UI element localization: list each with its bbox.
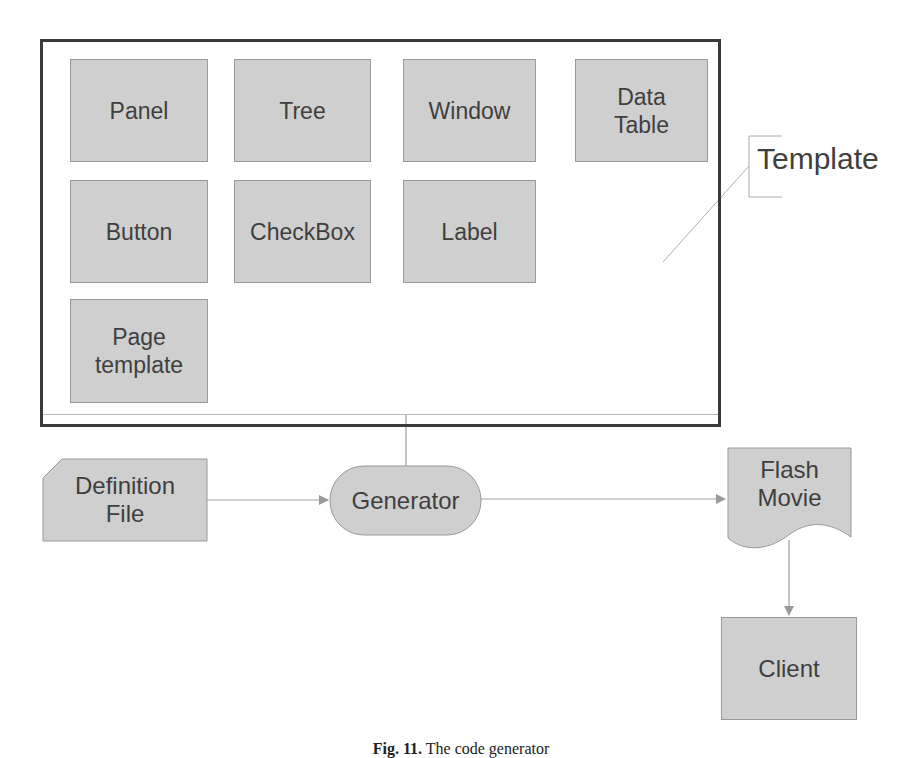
component-panel: Panel [70, 59, 208, 162]
component-window: Window [403, 59, 536, 162]
figure-caption-text: The code generator [422, 740, 549, 757]
definition-file-label: Definition File [50, 459, 200, 541]
generator-label: Generator [330, 466, 481, 535]
component-checkbox: CheckBox [234, 180, 371, 283]
template-label: Template [757, 142, 879, 176]
component-data-table: Data Table [575, 59, 708, 162]
figure-number: Fig. 11. [373, 740, 422, 757]
component-page-template: Page template [70, 299, 208, 403]
figure-caption: Fig. 11. The code generator [0, 740, 922, 758]
client-box: Client [721, 617, 857, 720]
component-label: Label [403, 180, 536, 283]
component-tree: Tree [234, 59, 371, 162]
component-button: Button [70, 180, 208, 283]
flash-movie-label: Flash Movie [728, 446, 851, 522]
template-frame-inner-line [43, 414, 718, 415]
